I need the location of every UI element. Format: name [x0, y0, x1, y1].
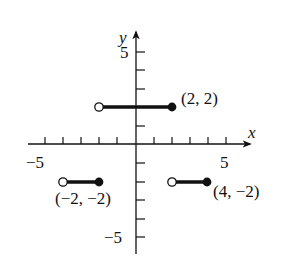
x-tick-label-5: 5	[220, 153, 229, 172]
annotation-4-neg2: (4, −2)	[213, 182, 259, 201]
annotation-neg2-neg2: (−2, −2)	[55, 189, 111, 208]
open-endpoint	[59, 178, 67, 186]
x-axis-label: x	[247, 123, 256, 142]
closed-endpoint	[203, 178, 212, 187]
annotation-2-2: (2, 2)	[181, 89, 218, 108]
y-tick-label-neg5: −5	[104, 228, 122, 247]
segment-lower-left	[59, 178, 104, 187]
closed-endpoint	[168, 103, 177, 112]
y-tick-label-5: 5	[120, 43, 129, 62]
piecewise-graph: y x −5 5 5 −5 (2, 2) (−2, −2) (4, −2)	[0, 0, 286, 264]
open-endpoint	[168, 178, 176, 186]
open-endpoint	[95, 103, 103, 111]
segment-lower-right	[168, 178, 212, 187]
closed-endpoint	[95, 178, 104, 187]
x-tick-label-neg5: −5	[26, 153, 44, 172]
